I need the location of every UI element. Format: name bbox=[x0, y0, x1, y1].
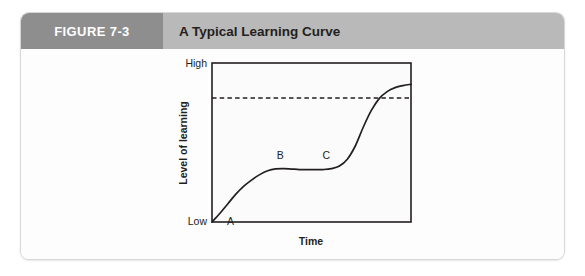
y-axis-tick-low: Low bbox=[188, 215, 208, 227]
chart-svg: High Low Level of learning Time A B C bbox=[21, 49, 565, 260]
figure-header: FIGURE 7-3 A Typical Learning Curve bbox=[21, 13, 565, 49]
figure-card: FIGURE 7-3 A Typical Learning Curve High… bbox=[20, 12, 565, 260]
figure-title: A Typical Learning Curve bbox=[179, 13, 340, 49]
figure-number-label: FIGURE 7-3 bbox=[54, 24, 130, 39]
figure-number-box: FIGURE 7-3 bbox=[21, 13, 163, 49]
learning-curve-chart: High Low Level of learning Time A B C bbox=[21, 49, 565, 260]
curve-point-label-c: C bbox=[322, 149, 330, 161]
x-axis-label: Time bbox=[299, 235, 323, 247]
y-axis-label: Level of learning bbox=[177, 101, 189, 184]
figure-body: High Low Level of learning Time A B C bbox=[21, 49, 565, 260]
plot-frame bbox=[212, 63, 411, 222]
y-axis-tick-high: High bbox=[185, 57, 207, 69]
curve-point-label-b: B bbox=[277, 149, 284, 161]
curve-point-label-a: A bbox=[227, 215, 234, 227]
